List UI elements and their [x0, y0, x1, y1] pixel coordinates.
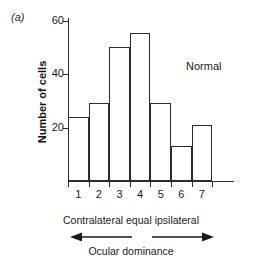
- bar: [192, 125, 213, 181]
- bar: [171, 146, 192, 181]
- x-tick-label: 2: [89, 188, 109, 200]
- x-tick-mark: [171, 182, 172, 187]
- arrow-left-icon: [70, 233, 82, 242]
- bar: [130, 33, 151, 181]
- x-tick-label: 7: [192, 188, 212, 200]
- x-tick-mark: [192, 182, 193, 187]
- dominance-arrows: [62, 230, 222, 244]
- x-tick-label: 4: [130, 188, 150, 200]
- x-axis-caption: Ocular dominance: [0, 245, 262, 257]
- y-tick-label: 20: [52, 121, 64, 133]
- x-tick-mark: [68, 182, 69, 187]
- series-annotation-normal: Normal: [186, 60, 221, 72]
- x-tick-label: 1: [68, 188, 88, 200]
- x-tick-label: 3: [110, 188, 130, 200]
- x-tick-mark: [212, 182, 213, 187]
- x-tick-mark: [109, 182, 110, 187]
- x-tick-mark: [89, 182, 90, 187]
- y-tick-label: 60: [52, 14, 64, 26]
- x-tick-label: 5: [151, 188, 171, 200]
- bar: [68, 117, 89, 181]
- x-tick-mark: [150, 182, 151, 187]
- bar: [150, 103, 171, 181]
- bar: [109, 47, 130, 181]
- figure-panel: (a) Number of cells 60 40 20: [0, 0, 262, 266]
- y-axis-title: Number of cells: [36, 42, 48, 162]
- x-tick-mark: [130, 182, 131, 187]
- dominance-scale-text: Contralateral equal ipsilateral: [63, 214, 199, 226]
- arrow-right-icon: [202, 233, 214, 242]
- dominance-scale-label: Contralateral equal ipsilateral: [0, 214, 262, 226]
- bar: [89, 103, 110, 181]
- x-tick-label: 6: [171, 188, 191, 200]
- arrows-svg: [62, 230, 222, 244]
- panel-label: (a): [11, 11, 24, 23]
- plot-area: 60 40 20 1 2 3 4 5 6 7: [68, 18, 234, 184]
- y-tick-label: 40: [52, 67, 64, 79]
- x-axis-caption-text: Ocular dominance: [88, 245, 173, 257]
